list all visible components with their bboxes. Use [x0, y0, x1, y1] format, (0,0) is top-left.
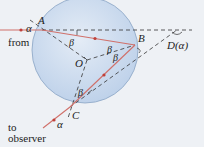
label-alpha-out: α	[57, 119, 63, 130]
label-point-a: A	[38, 15, 45, 26]
arrow-bc	[102, 73, 105, 76]
label-point-o: O	[75, 58, 83, 69]
label-from: from	[8, 37, 29, 48]
label-observer: observer	[8, 133, 46, 144]
arrow-ab	[93, 37, 96, 40]
arrow-incident	[19, 28, 22, 31]
label-point-b: B	[138, 33, 145, 44]
water-droplet	[32, 0, 138, 103]
label-beta-b1: β	[107, 44, 112, 55]
label-beta-a: β	[69, 37, 74, 48]
label-point-c: C	[72, 110, 79, 121]
label-beta-b2: β	[113, 52, 118, 63]
arrow-exit	[52, 118, 55, 121]
label-point-d: D(α)	[167, 40, 188, 51]
label-alpha-in: α	[26, 23, 32, 34]
label-beta-c: β	[78, 87, 83, 98]
